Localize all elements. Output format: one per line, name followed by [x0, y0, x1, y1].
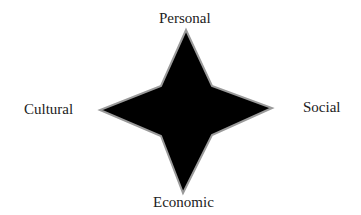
label-social: Social	[303, 99, 341, 116]
four-pointed-star-shape	[100, 30, 272, 193]
label-cultural: Cultural	[24, 101, 73, 118]
label-personal: Personal	[159, 10, 211, 27]
label-economic: Economic	[153, 194, 214, 211]
